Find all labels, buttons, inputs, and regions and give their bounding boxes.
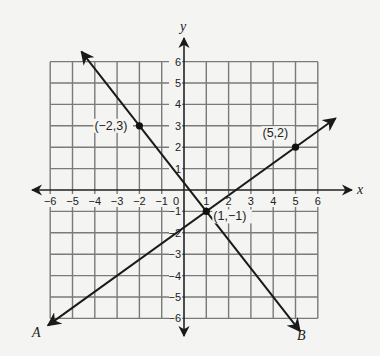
- y-tick-label: 6: [175, 56, 181, 68]
- point-label: (5,2): [263, 126, 289, 140]
- axes: xy: [32, 19, 364, 336]
- y-tick-label: −4: [168, 270, 181, 282]
- x-tick-label: −4: [89, 195, 102, 207]
- x-tick-label: 6: [315, 195, 321, 207]
- x-tick-label: 5: [292, 195, 298, 207]
- x-tick-label: 4: [270, 195, 276, 207]
- line-a-label: A: [31, 325, 41, 340]
- y-axis-label: y: [178, 19, 187, 34]
- x-tick-label: −3: [111, 195, 124, 207]
- y-tick-label: 2: [175, 141, 181, 153]
- data-points: (−2,3)(5,2)(1,−1): [93, 119, 299, 224]
- y-tick-label: −6: [168, 312, 181, 324]
- x-tick-label: 3: [248, 195, 254, 207]
- line-b-label: B: [297, 328, 306, 343]
- coordinate-plane-chart: xy −6−5−4−3−2−10123456654321−1−2−3−4−5−6…: [0, 0, 380, 356]
- y-tick-label: 3: [175, 120, 181, 132]
- y-tick-label: −3: [168, 248, 181, 260]
- data-point: [292, 144, 299, 151]
- y-tick-label: 5: [175, 77, 181, 89]
- data-point: [203, 208, 210, 215]
- y-tick-label: −5: [168, 291, 181, 303]
- x-tick-label: 1: [203, 195, 209, 207]
- point-label: (1,−1): [213, 209, 246, 223]
- data-point: [136, 122, 143, 129]
- y-tick-label: 4: [175, 98, 181, 110]
- x-tick-label: −1: [155, 195, 168, 207]
- x-tick-label: −2: [133, 195, 146, 207]
- x-tick-label: −5: [66, 195, 79, 207]
- x-tick-label: −6: [44, 195, 57, 207]
- plot-area: xy −6−5−4−3−2−10123456654321−1−2−3−4−5−6…: [0, 0, 380, 356]
- y-tick-label: −1: [168, 205, 181, 217]
- line-b: [81, 52, 300, 332]
- line-a: [48, 118, 336, 325]
- point-label: (−2,3): [94, 119, 127, 133]
- x-axis-label: x: [356, 182, 364, 197]
